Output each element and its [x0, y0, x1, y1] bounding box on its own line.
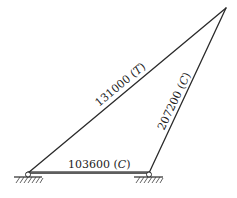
member-right-diagonal: [149, 8, 226, 173]
bottom-chord-force-label: 103600 (C): [68, 158, 131, 171]
truss-diagram: 131000 (T) 207200 (C) 103600 (C): [0, 0, 237, 198]
left-diagonal-force-label: 131000 (T): [93, 60, 149, 109]
member-left-diagonal: [28, 8, 226, 173]
right-diagonal-force-label: 207200 (C): [155, 70, 194, 132]
